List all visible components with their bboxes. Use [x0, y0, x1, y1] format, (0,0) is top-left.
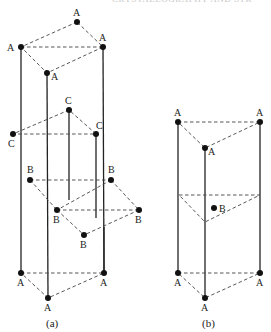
caption-a: (a)	[46, 317, 59, 330]
b-plane-edge	[57, 180, 111, 210]
label-c: C	[96, 120, 103, 131]
label-a: A	[99, 32, 107, 43]
atom-a	[175, 119, 181, 125]
a-bottom-plane	[178, 273, 260, 298]
atom-b	[108, 177, 114, 183]
label-a: A	[174, 107, 182, 118]
a-top-plane	[178, 122, 260, 148]
label-c: C	[8, 138, 15, 149]
label-b: B	[135, 214, 142, 225]
figure-a: A A A A C C C B B B B B A A A (a)	[7, 7, 142, 330]
label-a: A	[256, 277, 264, 288]
label-a: A	[7, 42, 15, 53]
label-a: A	[100, 277, 108, 288]
figure-b: A A A B A A A (b)	[174, 107, 264, 330]
label-a: A	[201, 302, 209, 313]
atom-b	[136, 207, 142, 213]
atom-a	[175, 270, 181, 276]
atom-a	[44, 70, 50, 76]
atom-a	[45, 295, 51, 301]
label-b: B	[53, 214, 60, 225]
b-plane-edge	[57, 210, 84, 235]
label-a: A	[256, 107, 264, 118]
label-a: A	[17, 277, 25, 288]
atom-a	[257, 119, 263, 125]
atom-a	[100, 44, 106, 50]
label-a: A	[51, 71, 59, 82]
crystal-structure-diagram: A A A A C C C B B B B B A A A (a) A A A …	[0, 0, 271, 332]
a-top-plane	[21, 22, 103, 73]
a-bottom-plane	[21, 273, 104, 298]
label-a: A	[73, 7, 81, 18]
atom-b	[211, 205, 217, 211]
label-b: B	[219, 203, 226, 214]
label-b: B	[80, 239, 87, 250]
atom-a	[18, 270, 24, 276]
label-a: A	[208, 146, 216, 157]
caption-b: (b)	[202, 317, 215, 330]
atom-c	[10, 131, 16, 137]
atom-c	[93, 131, 99, 137]
b-plane-edge	[111, 180, 139, 210]
atom-a	[202, 295, 208, 301]
atom-b	[81, 232, 87, 238]
label-b: B	[108, 164, 115, 175]
atom-b	[27, 177, 33, 183]
label-a: A	[44, 302, 52, 313]
atom-a	[74, 19, 80, 25]
atom-a	[257, 270, 263, 276]
atom-a	[18, 44, 24, 50]
b-plane-edge	[30, 180, 57, 210]
c-plane	[13, 110, 96, 134]
label-a: A	[174, 277, 182, 288]
label-c: C	[65, 95, 72, 106]
edge-vertical	[47, 73, 48, 298]
label-b: B	[27, 164, 34, 175]
b-plane-edge	[84, 210, 139, 235]
atom-a	[101, 270, 107, 276]
atom-c	[66, 107, 72, 113]
atom-b	[54, 207, 60, 213]
